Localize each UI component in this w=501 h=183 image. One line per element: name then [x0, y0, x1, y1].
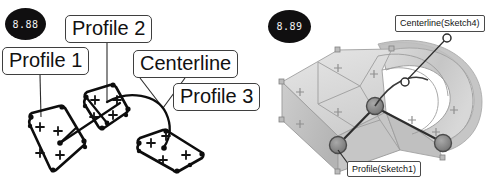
profile-1-sketch[interactable] [28, 104, 87, 172]
centerline-callout-dot[interactable] [443, 34, 451, 42]
callout-profile-3[interactable]: Profile 3 [173, 83, 260, 111]
callout-centerline-sketch4[interactable]: Centerline(Sketch4) [395, 15, 485, 32]
profile-3-center-point [161, 145, 167, 151]
callout-profile-3-label: Profile 3 [180, 86, 253, 106]
callout-profile-2[interactable]: Profile 2 [65, 15, 152, 43]
callout-profile-sketch1[interactable]: Profile(Sketch1) [347, 161, 421, 177]
figure-number-badge-right: 8.89 [268, 10, 311, 43]
callout-centerline-sketch4-label: Centerline(Sketch4) [400, 19, 480, 28]
left-figure-panel: 8.88 Profile 1 Profile 2 Centerline Prof… [0, 0, 260, 183]
callout-profile-1-label: Profile 1 [9, 50, 82, 70]
profile-3-sketch[interactable] [136, 128, 204, 173]
callout-centerline-label: Centerline [140, 53, 231, 73]
callout-profile-sketch1-label: Profile(Sketch1) [352, 165, 416, 174]
figure-container: 8.88 Profile 1 Profile 2 Centerline Prof… [0, 0, 501, 183]
figure-number-badge-left: 8.88 [5, 8, 46, 40]
callout-profile-1[interactable]: Profile 1 [2, 47, 89, 75]
centerline-anchor-dot[interactable] [401, 78, 409, 86]
callout-centerline[interactable]: Centerline [133, 50, 238, 78]
right-figure-panel: 8.89 Centerline(Sketch4) Profile(Sketch1… [260, 0, 501, 183]
callout-profile-2-label: Profile 2 [72, 18, 145, 38]
sketch-axis-lines [60, 97, 120, 143]
